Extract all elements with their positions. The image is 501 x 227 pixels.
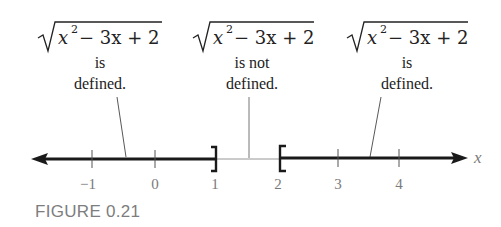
- svg-text:x: x: [58, 27, 68, 48]
- tick-label: 1: [211, 176, 219, 192]
- tick-label: 4: [395, 176, 403, 192]
- leader-line-left: [117, 97, 126, 157]
- expression-middle: x 2 − 3x + 2 is not defined.: [193, 22, 314, 92]
- expression-right: x 2 − 3x + 2 is defined.: [347, 22, 468, 92]
- figure-caption: FIGURE 0.21: [35, 202, 140, 221]
- annotation-left-line2: defined.: [74, 75, 126, 92]
- tick-label: −1: [80, 176, 96, 192]
- tick-label: 2: [274, 176, 282, 192]
- annotation-left-line1: is: [95, 54, 106, 71]
- leader-line-right: [370, 97, 381, 157]
- svg-text:x: x: [213, 27, 223, 48]
- number-line-figure: x 2 − 3x + 2 is defined. x 2 − 3x + 2 is…: [0, 0, 501, 227]
- svg-text:2: 2: [226, 23, 233, 36]
- svg-text:2: 2: [71, 23, 78, 36]
- tick-label: 0: [151, 176, 159, 192]
- annotation-middle-line1: is not: [234, 54, 270, 71]
- svg-text:x: x: [367, 27, 377, 48]
- svg-text:2: 2: [380, 23, 387, 36]
- axis-variable-label: x: [473, 148, 482, 167]
- tick-label: 3: [334, 176, 342, 192]
- expression-left: x 2 − 3x + 2 is defined.: [38, 22, 162, 92]
- svg-text:− 3x + 2: − 3x + 2: [79, 27, 159, 48]
- svg-text:− 3x + 2: − 3x + 2: [388, 27, 468, 48]
- svg-text:− 3x + 2: − 3x + 2: [234, 27, 314, 48]
- annotation-right-line1: is: [402, 54, 413, 71]
- annotation-right-line2: defined.: [381, 75, 433, 92]
- annotation-middle-line2: defined.: [226, 75, 278, 92]
